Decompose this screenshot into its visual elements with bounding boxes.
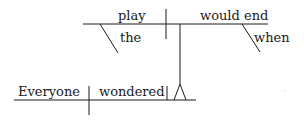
main-subject: Everyone bbox=[18, 84, 80, 99]
modifier-when: when bbox=[254, 30, 290, 45]
pedestal-left-leg bbox=[174, 84, 180, 100]
speck bbox=[284, 90, 285, 91]
clause-subject: play bbox=[118, 8, 146, 23]
clause-verb: would end bbox=[200, 8, 268, 23]
pedestal-right-leg bbox=[180, 84, 186, 100]
main-verb: wondered bbox=[99, 84, 165, 99]
sentence-diagram: play would end the when Everyone wondere… bbox=[0, 0, 304, 123]
modifier-the: the bbox=[120, 30, 142, 45]
modifier-the-slant bbox=[100, 24, 118, 53]
